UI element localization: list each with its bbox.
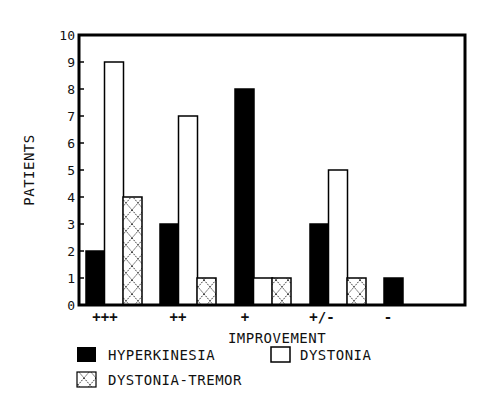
- bar-dystonia-tremor-2: [272, 278, 291, 305]
- legend-item-hyperkinesia: HYPERKINESIA: [77, 347, 215, 363]
- y-tick-label: 1: [67, 271, 75, 286]
- y-tick-label: 5: [67, 163, 75, 178]
- y-tick-label: 10: [59, 28, 75, 43]
- x-category-label: +/-: [309, 309, 334, 325]
- legend-swatch-solid-icon: [77, 347, 96, 362]
- y-tick-label: 6: [67, 136, 75, 151]
- bar-dystonia-0: [105, 62, 124, 305]
- bar-hyperkinesia-0: [86, 251, 105, 305]
- bar-hyperkinesia-3: [310, 224, 329, 305]
- y-tick-label: 4: [67, 190, 75, 205]
- y-tick-label: 7: [67, 109, 75, 124]
- x-category-label: -: [384, 309, 392, 325]
- y-tick-label: 0: [67, 298, 75, 313]
- legend-label: DYSTONIA-TREMOR: [108, 372, 242, 388]
- bar-chart: PATIENTS 012345678910 +++++++/-- IMPROVE…: [0, 0, 490, 406]
- y-axis-title: PATIENTS: [21, 134, 37, 205]
- bar-series: [86, 62, 403, 305]
- legend-label: HYPERKINESIA: [108, 347, 215, 363]
- bar-dystonia-tremor-0: [123, 197, 142, 305]
- legend-swatch-crosshatch-icon: [77, 372, 96, 387]
- x-category-label: ++: [170, 309, 187, 325]
- bar-dystonia-1: [179, 116, 198, 305]
- legend-item-dystonia-tremor: DYSTONIA-TREMOR: [77, 372, 242, 388]
- bar-hyperkinesia-2: [235, 89, 254, 305]
- y-tick-label: 9: [67, 55, 75, 70]
- legend-label: DYSTONIA: [300, 347, 372, 363]
- legend-swatch-outline-icon: [271, 347, 290, 362]
- legend-item-dystonia: DYSTONIA: [271, 347, 372, 363]
- x-category-label: +: [241, 309, 249, 325]
- y-tick-label: 8: [67, 82, 75, 97]
- y-tick-label: 2: [67, 244, 75, 259]
- bar-dystonia-2: [254, 278, 273, 305]
- bar-hyperkinesia-4: [384, 278, 403, 305]
- x-axis-categories: +++++++/--: [92, 309, 392, 325]
- bar-hyperkinesia-1: [160, 224, 179, 305]
- bar-dystonia-3: [329, 170, 348, 305]
- x-axis-title: IMPROVEMENT: [228, 330, 326, 346]
- y-tick-label: 3: [67, 217, 75, 232]
- bar-dystonia-tremor-1: [197, 278, 216, 305]
- x-category-label: +++: [92, 309, 117, 325]
- legend: HYPERKINESIA DYSTONIA DYSTONIA-TREMOR: [77, 347, 372, 388]
- bar-dystonia-tremor-3: [347, 278, 366, 305]
